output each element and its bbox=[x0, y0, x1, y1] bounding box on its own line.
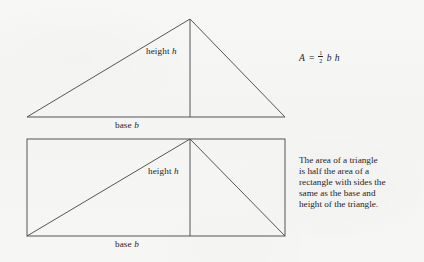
caption-line: height of the triangle. bbox=[299, 199, 421, 210]
caption-line: is half the area of a bbox=[299, 166, 421, 177]
base-label-bottom-text: base bbox=[115, 239, 134, 249]
diagram-canvas bbox=[0, 0, 424, 262]
base-label-top-var: b bbox=[134, 120, 139, 130]
area-formula: A = 1 2 bh bbox=[299, 50, 339, 64]
height-label-bottom: height h bbox=[148, 167, 179, 177]
height-label-top-text: height bbox=[146, 46, 172, 56]
base-label-top-text: base bbox=[115, 120, 134, 130]
rectangle-outline-bottom bbox=[27, 139, 285, 236]
formula-height-var: h bbox=[335, 52, 340, 63]
triangle-left-side-bottom bbox=[27, 139, 190, 236]
triangle-right-side-bottom bbox=[190, 139, 285, 236]
formula-equals-sign: = bbox=[308, 52, 315, 63]
triangle-outline-top bbox=[27, 19, 285, 117]
formula-base-var: b bbox=[327, 52, 332, 63]
base-label-bottom-var: b bbox=[134, 239, 139, 249]
caption-line: rectangle with sides the bbox=[299, 177, 421, 188]
formula-area-symbol: A bbox=[299, 52, 305, 63]
height-label-top: height h bbox=[146, 47, 177, 57]
caption-line: The area of a triangle bbox=[299, 155, 421, 166]
caption-text: The area of a triangle is half the area … bbox=[299, 155, 421, 210]
formula-denominator: 2 bbox=[318, 57, 323, 64]
base-label-top: base b bbox=[115, 121, 139, 131]
formula-one-half-fraction: 1 2 bbox=[318, 50, 323, 64]
triangle-in-rectangle-figure-bottom bbox=[27, 139, 285, 236]
base-label-bottom: base b bbox=[115, 240, 139, 250]
triangle-figure-top bbox=[27, 19, 285, 117]
height-label-top-var: h bbox=[172, 46, 177, 56]
height-label-bottom-text: height bbox=[148, 166, 174, 176]
height-label-bottom-var: h bbox=[174, 166, 179, 176]
caption-line: same as the base and bbox=[299, 188, 421, 199]
